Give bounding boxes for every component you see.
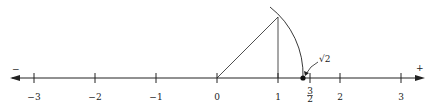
tick-label: 0 [214, 92, 220, 102]
right-arrow-icon [415, 75, 425, 81]
pointer-arrow [306, 62, 318, 74]
negative-sign: − [12, 64, 20, 74]
left-arrow-icon [10, 75, 20, 81]
tick-label: −1 [149, 92, 162, 102]
hypotenuse-line [217, 17, 278, 78]
tick-label: 3 [398, 92, 404, 102]
tick-label: 1 [275, 92, 281, 102]
number-line-diagram: − + −3 −2 −1 0 1 2 3 3 2 √2 [0, 0, 435, 110]
tick-label: 2 [337, 92, 343, 102]
sqrt2-label: √2 [319, 54, 330, 64]
sqrt2-point [300, 75, 305, 80]
tick-label: −2 [88, 92, 101, 102]
tick-label: −3 [27, 92, 41, 102]
fraction-denominator: 2 [307, 94, 313, 104]
compass-arc [270, 7, 303, 78]
pointer-arrowhead-icon [304, 71, 309, 76]
positive-sign: + [416, 63, 424, 73]
